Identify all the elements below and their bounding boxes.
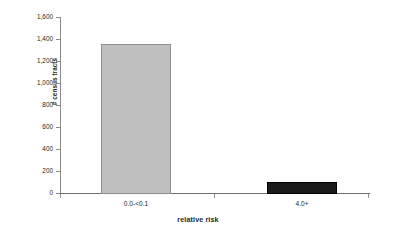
- x-axis-title: relative risk: [0, 216, 396, 224]
- y-tick-400: [56, 149, 60, 150]
- y-axis-label-1200: 1,200: [0, 58, 53, 64]
- y-tick-600: [56, 127, 60, 128]
- bar-high-risk: [267, 182, 337, 194]
- bar-low-risk: [101, 44, 171, 194]
- y-tick-1000: [56, 83, 60, 84]
- x-axis-label-low-risk: 0.0-<0.1: [76, 200, 196, 207]
- x-axis-label-high-risk: 4.0+: [242, 200, 362, 207]
- y-axis-label-1600: 1,600: [0, 14, 53, 20]
- x-tick-left: [60, 194, 61, 198]
- y-axis-line: [60, 17, 61, 194]
- y-tick-1400: [56, 39, 60, 40]
- x-tick-center: [214, 194, 215, 198]
- y-tick-1200: [56, 61, 60, 62]
- y-axis-label-600: 600: [0, 124, 53, 130]
- y-axis-label-400: 400: [0, 146, 53, 152]
- bar-chart-figure: # census tracts 0 200 400 600 800 1,000 …: [0, 0, 396, 243]
- y-tick-800: [56, 105, 60, 106]
- y-tick-200: [56, 171, 60, 172]
- y-axis-label-800: 800: [0, 102, 53, 108]
- y-axis-label-1400: 1,400: [0, 36, 53, 42]
- y-axis-label-0: 0: [0, 190, 53, 196]
- x-tick-right: [368, 194, 369, 198]
- y-axis-label-1000: 1,000: [0, 80, 53, 86]
- y-tick-1600: [56, 17, 60, 18]
- y-axis-label-200: 200: [0, 168, 53, 174]
